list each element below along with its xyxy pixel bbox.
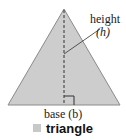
height-label: height bbox=[90, 12, 121, 26]
square-bullet-icon bbox=[33, 124, 41, 132]
figure-caption: triangle bbox=[0, 119, 126, 137]
caption-text: triangle bbox=[46, 121, 93, 136]
height-variable-label: (h) bbox=[96, 25, 110, 39]
